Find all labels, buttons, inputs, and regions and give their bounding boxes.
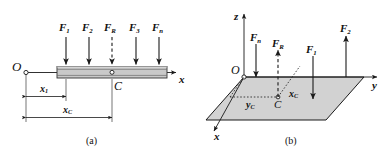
origin-label-a: O — [12, 60, 21, 73]
force-label-f2-b: F2 — [340, 23, 351, 35]
panel-a-caption: (a) — [86, 135, 97, 146]
force-label-f1-b: F1 — [306, 44, 317, 56]
coordinate-label-yc: yC — [246, 100, 255, 111]
centroid-point-marker — [110, 70, 114, 74]
force-label-f2: F2 — [82, 22, 93, 34]
reference-plane — [206, 77, 364, 120]
force-label-fn: Fn — [152, 22, 163, 34]
axis-label-x-a: x — [179, 74, 185, 85]
force-label-fr: FR — [104, 22, 116, 34]
origin-label-b: O — [231, 64, 240, 76]
centroid-label-a: C — [114, 80, 122, 92]
panel-a-graphic — [0, 0, 196, 161]
axis-label-y: y — [372, 80, 377, 91]
panel-a-bar-diagram: F1 F2 FR F3 Fn O C x x1 xC (a) — [0, 0, 196, 161]
force-label-f1: F1 — [59, 22, 70, 34]
panel-b-caption: (b) — [285, 135, 297, 146]
force-label-fr-b: FR — [272, 38, 284, 50]
figure-parallel-force-systems: F1 F2 FR F3 Fn O C x x1 xC (a) — [0, 0, 390, 161]
force-label-fn-b: Fn — [250, 32, 261, 44]
dimension-label-xc: xC — [63, 105, 72, 116]
origin-point-marker — [24, 70, 28, 74]
centroid-label-b: C — [274, 99, 281, 110]
coordinate-label-xc: xC — [289, 89, 298, 100]
dimension-label-x1: x1 — [40, 84, 48, 95]
axis-label-z: z — [234, 11, 238, 22]
force-label-f3: F3 — [129, 22, 140, 34]
axis-label-x-b: x — [214, 131, 220, 142]
panel-b-plane-diagram: z y x O C Fn FR F1 F2 yC xC (b) — [196, 0, 390, 161]
